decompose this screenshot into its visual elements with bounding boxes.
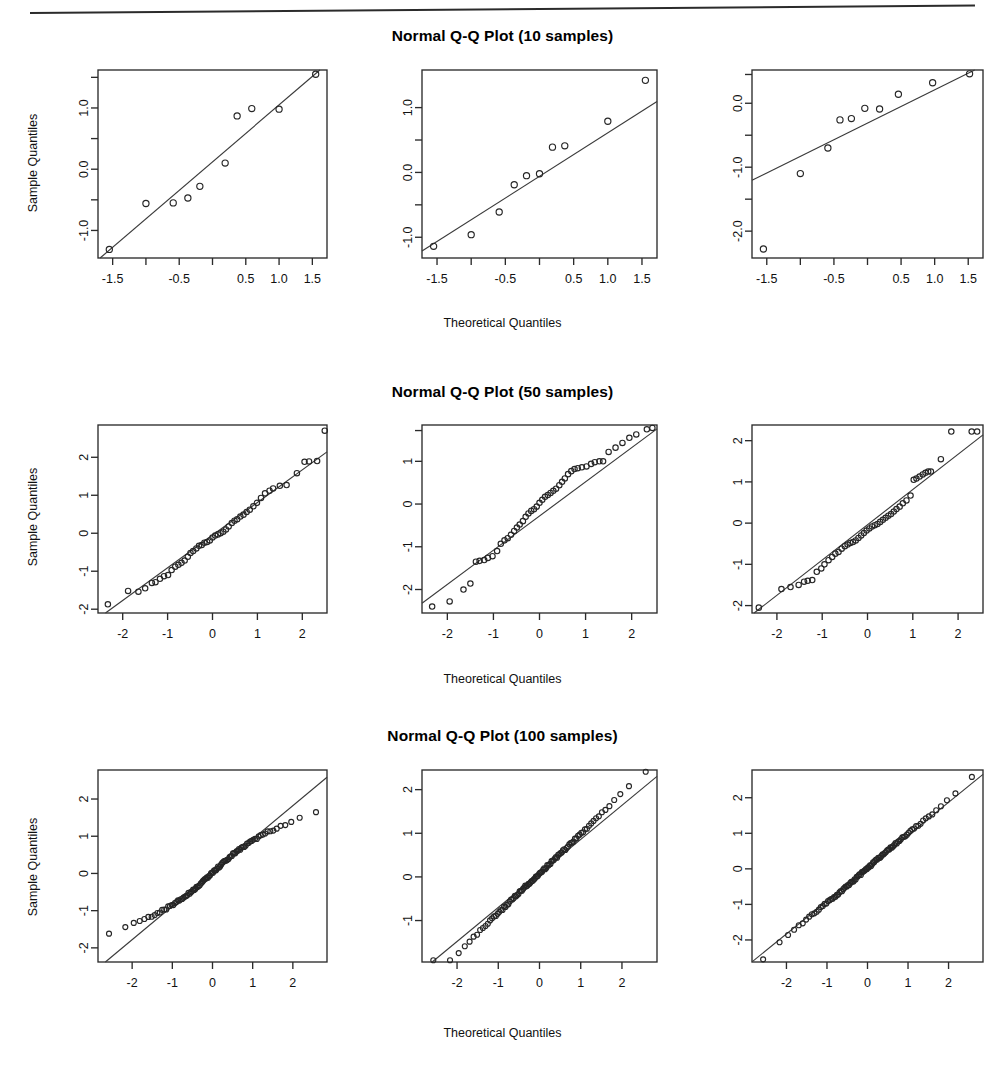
svg-text:-2.0: -2.0 <box>731 220 745 242</box>
svg-text:-1: -1 <box>77 566 91 577</box>
qq-panel-1: -1.5-0.50.51.01.5-1.00.01.0 <box>0 60 340 310</box>
svg-text:0: 0 <box>401 873 415 880</box>
qq-plot-figure: Normal Q-Q Plot (10 samples) Sample Quan… <box>0 0 1005 1069</box>
qq-panel-2-svg: -1.5-0.50.51.01.5-1.00.01.0 <box>330 60 670 310</box>
svg-text:1: 1 <box>249 976 256 990</box>
svg-text:-2: -2 <box>77 604 91 615</box>
qq-panel-6: -2-1012-2-1012 <box>660 415 1005 665</box>
svg-text:0.0: 0.0 <box>401 164 415 181</box>
qq-panel-6-svg: -2-1012-2-1012 <box>660 415 1005 665</box>
svg-text:0: 0 <box>209 976 216 990</box>
svg-text:1: 1 <box>254 627 261 641</box>
svg-text:-2: -2 <box>127 976 138 990</box>
qq-panel-4: -2-1012-2-1012 <box>0 415 340 665</box>
x-axis-label-row3: Theoretical Quantiles <box>0 1026 1005 1040</box>
qq-panel-8-svg: -2-1012-1012 <box>330 760 670 1018</box>
svg-text:1.5: 1.5 <box>633 272 650 286</box>
svg-text:-2: -2 <box>771 627 782 641</box>
qq-panel-8: -2-1012-1012 <box>330 760 670 1018</box>
svg-text:1: 1 <box>577 976 584 990</box>
svg-text:1: 1 <box>77 492 91 499</box>
svg-text:-1: -1 <box>821 976 832 990</box>
svg-text:1: 1 <box>731 478 745 485</box>
svg-text:0: 0 <box>731 520 745 527</box>
svg-text:-1: -1 <box>731 899 745 910</box>
svg-text:1.0: 1.0 <box>926 272 943 286</box>
plot-row-100-samples: Normal Q-Q Plot (100 samples) Sample Qua… <box>0 700 1005 1069</box>
svg-text:1: 1 <box>905 976 912 990</box>
x-axis-label-row2: Theoretical Quantiles <box>0 672 1005 686</box>
svg-text:-2: -2 <box>451 976 462 990</box>
row-title-10-samples: Normal Q-Q Plot (10 samples) <box>0 27 1005 45</box>
svg-text:-1.5: -1.5 <box>426 272 448 286</box>
svg-text:-1: -1 <box>731 559 745 570</box>
svg-text:2: 2 <box>299 627 306 641</box>
qq-panel-7-svg: -2-1012-2-1012 <box>0 760 340 1018</box>
svg-text:-2: -2 <box>117 627 128 641</box>
row-title-100-samples: Normal Q-Q Plot (100 samples) <box>0 727 1005 745</box>
svg-text:-1: -1 <box>488 627 499 641</box>
svg-text:0: 0 <box>864 627 871 641</box>
svg-text:1: 1 <box>582 627 589 641</box>
qq-panel-2: -1.5-0.50.51.01.5-1.00.01.0 <box>330 60 670 310</box>
svg-text:-1: -1 <box>401 541 415 552</box>
svg-text:0: 0 <box>536 976 543 990</box>
svg-text:2: 2 <box>289 976 296 990</box>
svg-text:0.0: 0.0 <box>731 95 745 112</box>
svg-text:0.5: 0.5 <box>892 272 909 286</box>
qq-panel-9: -2-1012-2-1012 <box>660 760 1005 1018</box>
qq-panel-3-svg: -1.5-0.50.51.01.5-2.0-1.00.0 <box>660 60 1005 310</box>
qq-panel-7: -2-1012-2-1012 <box>0 760 340 1018</box>
svg-text:2: 2 <box>77 795 91 802</box>
svg-text:1: 1 <box>731 830 745 837</box>
svg-text:1: 1 <box>909 627 916 641</box>
svg-text:2: 2 <box>731 437 745 444</box>
svg-text:-2: -2 <box>781 976 792 990</box>
svg-text:-2: -2 <box>442 627 453 641</box>
svg-text:0.0: 0.0 <box>77 160 91 177</box>
svg-text:-0.5: -0.5 <box>823 272 845 286</box>
svg-text:2: 2 <box>618 976 625 990</box>
svg-text:-1: -1 <box>817 627 828 641</box>
svg-text:0: 0 <box>536 627 543 641</box>
svg-text:-1: -1 <box>162 627 173 641</box>
svg-text:2: 2 <box>945 976 952 990</box>
plot-row-10-samples: Normal Q-Q Plot (10 samples) Sample Quan… <box>0 0 1005 355</box>
svg-text:1.5: 1.5 <box>304 272 321 286</box>
svg-text:0: 0 <box>77 870 91 877</box>
svg-text:-1.0: -1.0 <box>401 226 415 248</box>
qq-panel-3: -1.5-0.50.51.01.5-2.0-1.00.0 <box>660 60 1005 310</box>
svg-text:1.0: 1.0 <box>77 99 91 116</box>
svg-text:2: 2 <box>955 627 962 641</box>
qq-panel-5: -2-1012-2-101 <box>330 415 670 665</box>
svg-text:1: 1 <box>401 458 415 465</box>
svg-text:1.0: 1.0 <box>270 272 287 286</box>
qq-panel-4-svg: -2-1012-2-1012 <box>0 415 340 665</box>
svg-text:-2: -2 <box>731 934 745 945</box>
svg-text:0.5: 0.5 <box>237 272 254 286</box>
svg-text:-1.0: -1.0 <box>731 156 745 178</box>
svg-text:1: 1 <box>77 833 91 840</box>
svg-text:-1: -1 <box>493 976 504 990</box>
svg-text:-1: -1 <box>401 915 415 926</box>
svg-text:0: 0 <box>864 976 871 990</box>
svg-text:1: 1 <box>401 830 415 837</box>
qq-panel-5-svg: -2-1012-2-101 <box>330 415 670 665</box>
svg-text:1.5: 1.5 <box>960 272 977 286</box>
svg-text:-2: -2 <box>401 584 415 595</box>
svg-text:-2: -2 <box>731 600 745 611</box>
svg-text:2: 2 <box>731 794 745 801</box>
plot-row-50-samples: Normal Q-Q Plot (50 samples) Sample Quan… <box>0 355 1005 715</box>
qq-panel-9-svg: -2-1012-2-1012 <box>660 760 1005 1018</box>
row-title-50-samples: Normal Q-Q Plot (50 samples) <box>0 383 1005 401</box>
svg-text:-0.5: -0.5 <box>168 272 190 286</box>
svg-text:-0.5: -0.5 <box>495 272 517 286</box>
svg-text:2: 2 <box>77 454 91 461</box>
svg-text:-1: -1 <box>167 976 178 990</box>
svg-text:-1.5: -1.5 <box>102 272 124 286</box>
svg-text:0: 0 <box>77 530 91 537</box>
svg-text:-1.0: -1.0 <box>77 220 91 242</box>
svg-text:-1: -1 <box>77 905 91 916</box>
qq-panel-1-svg: -1.5-0.50.51.01.5-1.00.01.0 <box>0 60 340 310</box>
svg-text:0: 0 <box>731 865 745 872</box>
